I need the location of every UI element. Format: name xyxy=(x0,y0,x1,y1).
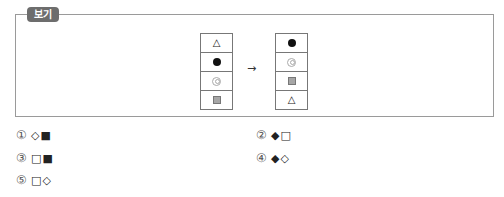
stack-cell xyxy=(201,72,232,91)
choice-5[interactable]: ⑤ □◇ xyxy=(16,173,52,187)
choice-symbols: □■ xyxy=(31,152,54,165)
choice-4[interactable]: ④ ◆◇ xyxy=(256,151,290,165)
gray-square-icon xyxy=(288,77,296,85)
filled-circle-icon xyxy=(213,58,221,66)
choice-1[interactable]: ① ◇■ xyxy=(16,128,52,142)
stack-cell: △ xyxy=(276,91,307,109)
choice-number: ③ xyxy=(16,151,27,165)
choice-number: ④ xyxy=(256,151,267,165)
after-stack: △ xyxy=(275,33,308,110)
stack-cell xyxy=(276,34,307,53)
choice-symbols: ◆◇ xyxy=(271,152,290,165)
triangle-icon: △ xyxy=(213,38,221,48)
stack-cell xyxy=(201,91,232,109)
choice-symbols: □◇ xyxy=(31,174,52,187)
arrow-icon: → xyxy=(247,62,256,75)
choice-number: ⑤ xyxy=(16,173,27,187)
choice-number: ② xyxy=(256,128,267,142)
double-circle-icon xyxy=(287,58,296,67)
before-stack: △ xyxy=(200,33,233,110)
stack-cell xyxy=(276,53,307,72)
stack-cell xyxy=(276,72,307,91)
choice-2[interactable]: ② ◆□ xyxy=(256,128,292,142)
choice-symbols: ◇■ xyxy=(31,129,52,142)
example-label: 보기 xyxy=(27,7,59,22)
triangle-icon: △ xyxy=(288,95,296,105)
choice-symbols: ◆□ xyxy=(271,129,292,142)
double-circle-icon xyxy=(212,77,221,86)
choice-number: ① xyxy=(16,128,27,142)
gray-square-icon xyxy=(213,96,221,104)
stack-cell xyxy=(201,53,232,72)
stack-cell: △ xyxy=(201,34,232,53)
choice-3[interactable]: ③ □■ xyxy=(16,151,54,165)
filled-circle-icon xyxy=(288,39,296,47)
